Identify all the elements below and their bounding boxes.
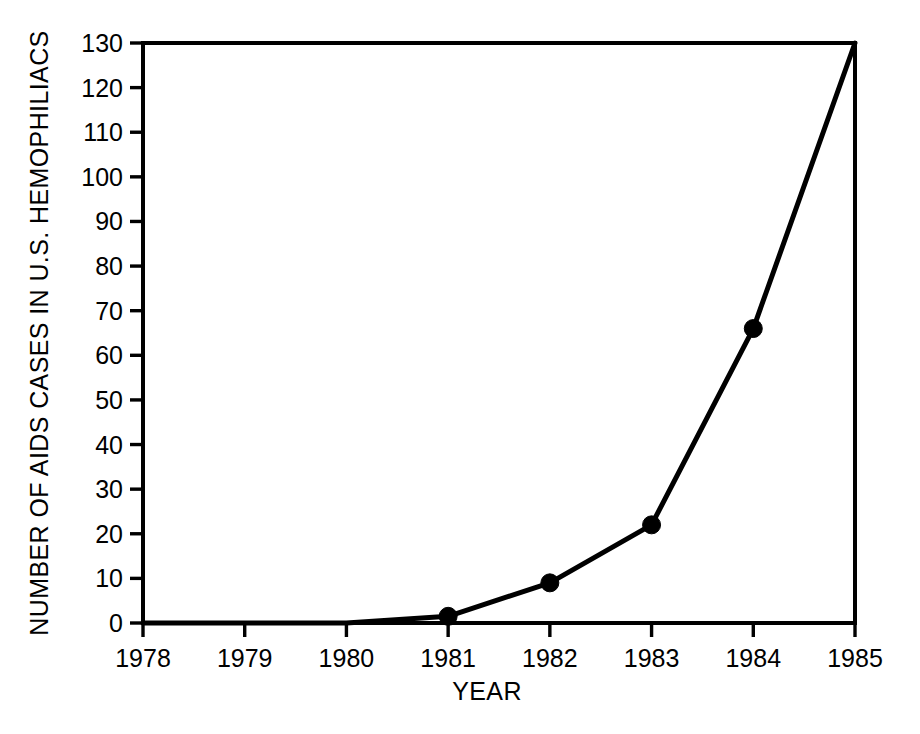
x-tick-label: 1979 <box>217 644 273 672</box>
y-tick-label: 130 <box>81 29 123 57</box>
chart-figure: 0102030405060708090100110120130 19781979… <box>0 0 920 734</box>
y-tick-label: 90 <box>95 207 123 235</box>
data-point-marker <box>541 574 559 592</box>
y-tick-label: 70 <box>95 297 123 325</box>
x-axis-ticks: 19781979198019811982198319841985 <box>115 623 883 672</box>
data-point-marker <box>439 607 457 625</box>
y-tick-label: 10 <box>95 564 123 592</box>
x-tick-label: 1983 <box>624 644 680 672</box>
y-tick-label: 30 <box>95 475 123 503</box>
x-tick-label: 1980 <box>319 644 375 672</box>
y-tick-label: 110 <box>83 118 123 146</box>
data-series <box>143 43 855 625</box>
series-markers <box>439 320 762 626</box>
y-axis-title: NUMBER OF AIDS CASES IN U.S. HEMOPHILIAC… <box>25 30 53 635</box>
x-tick-label: 1985 <box>827 644 883 672</box>
y-tick-label: 60 <box>95 341 123 369</box>
y-tick-label: 80 <box>95 252 123 280</box>
y-axis-ticks: 0102030405060708090100110120130 <box>81 29 143 637</box>
x-tick-label: 1978 <box>115 644 171 672</box>
x-tick-label: 1984 <box>725 644 781 672</box>
y-tick-label: 100 <box>81 163 123 191</box>
x-axis-title: YEAR <box>452 677 522 705</box>
y-tick-label: 40 <box>95 431 123 459</box>
line-chart: 0102030405060708090100110120130 19781979… <box>0 0 920 734</box>
y-tick-label: 0 <box>109 609 123 637</box>
y-tick-label: 120 <box>81 74 123 102</box>
data-point-marker <box>643 516 661 534</box>
data-point-marker <box>744 320 762 338</box>
y-tick-label: 20 <box>95 520 123 548</box>
x-tick-label: 1982 <box>522 644 578 672</box>
y-tick-label: 50 <box>95 386 123 414</box>
x-tick-label: 1981 <box>420 644 476 672</box>
